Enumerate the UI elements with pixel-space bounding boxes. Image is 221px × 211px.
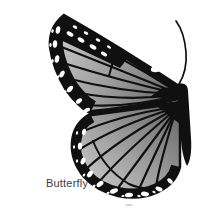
image-label: Butterfly: [46, 177, 88, 189]
butterfly-illustration: [0, 0, 221, 211]
stray-mark: [125, 204, 133, 206]
head: [177, 84, 184, 91]
butterfly-card: Butterfly: [0, 0, 221, 211]
forewing: [49, 15, 179, 114]
antenna: [176, 21, 186, 84]
